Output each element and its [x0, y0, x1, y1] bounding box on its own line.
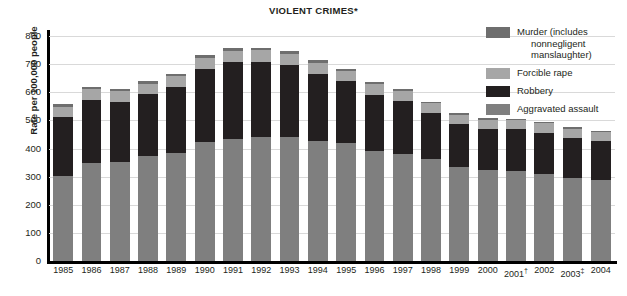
legend-item: Forcible rape [486, 67, 626, 79]
bar-segment-aggravated [393, 154, 413, 261]
y-tick-label: 0 [7, 256, 41, 266]
bar-segment-robbery [534, 133, 554, 174]
legend-item: Aggravated assault [486, 103, 626, 115]
x-tick-label-1998: 1998 [417, 265, 445, 276]
bar-1991 [223, 48, 243, 261]
bar-segment-forcible [591, 132, 611, 141]
bar-segment-aggravated [82, 163, 102, 261]
chart-legend: Murder (includesnonnegligentmanslaughter… [486, 26, 626, 121]
bar-segment-forcible [449, 115, 469, 124]
bar-segment-forcible [478, 120, 498, 129]
bar-segment-forcible [308, 63, 328, 74]
bar-segment-robbery [563, 138, 583, 178]
bar-1999 [449, 113, 469, 261]
chart-container: VIOLENT CRIMES* Rate per 100,000 people … [0, 0, 627, 296]
bar-segment-robbery [591, 141, 611, 180]
bar-segment-aggravated [166, 153, 186, 261]
bar-1992 [251, 48, 271, 261]
x-tick-label-1992: 1992 [247, 265, 275, 276]
aggravated-assault-swatch [486, 104, 510, 115]
bar-segment-robbery [138, 94, 158, 156]
x-tick-label-2003: 2003‡ [558, 265, 586, 280]
bar-1989 [166, 74, 186, 261]
bar-segment-forcible [223, 51, 243, 63]
bar-2002 [534, 122, 554, 261]
y-tick-label: 200 [7, 200, 41, 210]
chart-title-text: VIOLENT CRIMES* [269, 5, 358, 16]
bar-segment-robbery [53, 117, 73, 176]
bar-1990 [195, 55, 215, 261]
murder-swatch [486, 27, 510, 38]
bar-segment-forcible [365, 84, 385, 94]
y-tick-label: 600 [7, 87, 41, 97]
x-tick-label-1996: 1996 [360, 265, 388, 276]
bar-2001 [506, 119, 526, 261]
y-tick-label: 100 [7, 228, 41, 238]
bar-segment-robbery [365, 95, 385, 152]
bar-segment-aggravated [251, 137, 271, 261]
x-tick-label-1990: 1990 [191, 265, 219, 276]
bar-segment-robbery [223, 62, 243, 139]
bar-segment-robbery [421, 113, 441, 160]
x-tick-label-1987: 1987 [106, 265, 134, 276]
bar-segment-aggravated [449, 167, 469, 262]
bar-1993 [280, 51, 300, 261]
bar-segment-forcible [534, 123, 554, 132]
x-tick-label-1988: 1988 [134, 265, 162, 276]
x-tick-label-1999: 1999 [445, 265, 473, 276]
bar-1998 [421, 102, 441, 261]
bar-segment-aggravated [591, 180, 611, 261]
bar-segment-robbery [82, 100, 102, 164]
bar-segment-aggravated [336, 143, 356, 261]
legend-label: Robbery [517, 85, 553, 97]
bar-1985 [53, 104, 73, 261]
bar-2004 [591, 131, 611, 262]
bar-segment-forcible [166, 76, 186, 87]
bar-segment-aggravated [195, 142, 215, 261]
chart-title: VIOLENT CRIMES* [0, 5, 627, 16]
bar-segment-aggravated [223, 139, 243, 261]
forcible-rape-swatch [486, 68, 510, 79]
bar-1997 [393, 89, 413, 261]
bar-1996 [365, 82, 385, 261]
bar-segment-robbery [506, 129, 526, 171]
bar-segment-aggravated [421, 159, 441, 261]
bar-segment-forcible [506, 120, 526, 129]
y-tick-label: 300 [7, 172, 41, 182]
bar-segment-robbery [110, 102, 130, 162]
x-axis-line [47, 261, 617, 264]
x-tick-label-1994: 1994 [304, 265, 332, 276]
bar-1995 [336, 69, 356, 261]
bar-segment-aggravated [138, 156, 158, 261]
bar-segment-robbery [478, 129, 498, 170]
legend-item: Murder (includesnonnegligentmanslaughter… [486, 26, 626, 61]
bar-segment-forcible [195, 58, 215, 70]
bar-segment-aggravated [563, 178, 583, 261]
bar-segment-forcible [336, 71, 356, 81]
bar-segment-aggravated [365, 151, 385, 261]
bar-segment-forcible [53, 107, 73, 117]
bar-2000 [478, 118, 498, 261]
bar-segment-aggravated [506, 171, 526, 261]
bar-segment-robbery [449, 124, 469, 166]
bar-1994 [308, 60, 328, 261]
y-tick-label: 700 [7, 59, 41, 69]
legend-label: Aggravated assault [517, 103, 598, 115]
bar-segment-robbery [166, 87, 186, 153]
x-tick-label-1986: 1986 [77, 265, 105, 276]
bar-1987 [110, 89, 130, 261]
legend-label: Forcible rape [517, 67, 572, 79]
bar-segment-forcible [280, 54, 300, 66]
bar-segment-robbery [308, 74, 328, 141]
x-tick-label-1997: 1997 [389, 265, 417, 276]
bar-segment-robbery [393, 101, 413, 153]
bar-segment-aggravated [53, 176, 73, 261]
bar-segment-forcible [421, 103, 441, 113]
x-tick-label-1995: 1995 [332, 265, 360, 276]
x-axis-tick-labels: 1985198619871988198919901991199219931994… [47, 265, 617, 281]
x-tick-label-2004: 2004 [587, 265, 615, 276]
bar-segment-robbery [195, 69, 215, 141]
legend-label: Murder (includesnonnegligentmanslaughter… [517, 26, 592, 61]
bar-segment-forcible [251, 50, 271, 62]
robbery-swatch [486, 86, 510, 97]
